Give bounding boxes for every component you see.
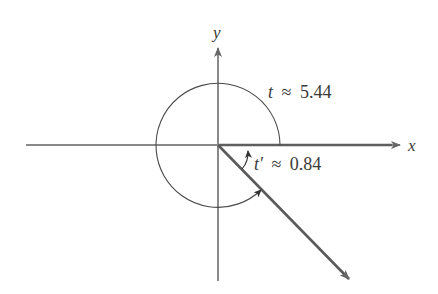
angle-t-approx: ≈ (282, 82, 292, 102)
angle-t-value: 5.44 (300, 82, 332, 102)
angle-t-prime-arc (242, 151, 248, 169)
angle-t-prime-label: t′ ≈ 0.84 (254, 154, 321, 174)
angle-t-symbol: t (268, 82, 274, 102)
angle-t-label: t ≈ 5.44 (268, 82, 331, 102)
angle-t-prime-symbol: t′ (254, 154, 264, 174)
angle-t-prime-approx: ≈ (271, 154, 281, 174)
angle-t-prime-value: 0.84 (290, 154, 322, 174)
angle-diagram: y x t ≈ 5.44 t′ ≈ 0.84 (0, 0, 438, 294)
x-axis-label: x (407, 136, 416, 155)
y-axis-label: y (211, 23, 221, 42)
